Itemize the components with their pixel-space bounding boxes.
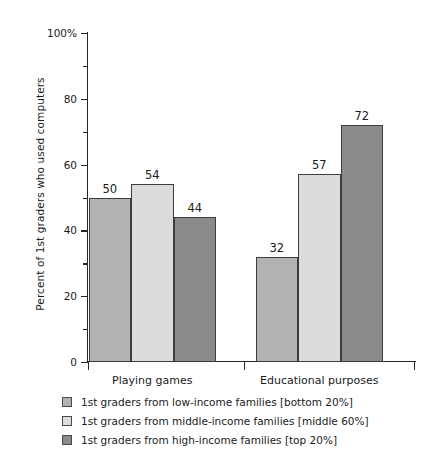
bar-value-label: 54 — [145, 168, 160, 182]
chart-legend: 1st graders from low-income families [bo… — [62, 392, 422, 449]
y-axis-tick — [81, 99, 88, 100]
legend-item: 1st graders from high-income families [t… — [62, 430, 422, 449]
bar-value-label: 32 — [269, 241, 284, 255]
bar: 72 — [341, 125, 384, 362]
bar: 57 — [298, 174, 341, 362]
bar-value-label: 44 — [187, 201, 202, 215]
y-axis-minor-tick — [83, 198, 88, 199]
y-axis-minor-tick — [83, 263, 88, 264]
x-axis-tick — [244, 362, 245, 370]
y-axis-minor-tick — [83, 132, 88, 133]
y-axis-tick-label: 0 — [70, 356, 77, 368]
y-axis-tick-label: 80 — [64, 93, 77, 105]
x-axis-category-label: Playing games — [112, 374, 192, 387]
y-axis-tick-label: 100% — [47, 27, 77, 39]
y-axis-tick-label: 60 — [64, 159, 77, 171]
bar: 44 — [174, 217, 217, 362]
legend-item: 1st graders from low-income families [bo… — [62, 392, 422, 411]
legend-swatch-icon — [62, 416, 72, 426]
bar: 54 — [131, 184, 174, 362]
legend-label: 1st graders from high-income families [t… — [81, 434, 337, 446]
legend-label: 1st graders from low-income families [bo… — [81, 396, 353, 408]
x-axis-tick — [88, 362, 89, 370]
x-axis-category-label: Educational purposes — [260, 374, 378, 387]
legend-swatch-icon — [62, 397, 72, 407]
y-axis-tick — [81, 33, 88, 34]
legend-swatch-icon — [62, 435, 72, 445]
y-axis-tick-label: 20 — [64, 290, 77, 302]
y-axis-tick — [81, 296, 88, 297]
y-axis-tick — [81, 230, 88, 231]
legend-item: 1st graders from middle-income families … — [62, 411, 422, 430]
x-axis-end-tick — [414, 362, 415, 370]
y-axis-tick — [81, 362, 88, 363]
bar: 32 — [256, 257, 299, 362]
y-axis-tick-label: 40 — [64, 224, 77, 236]
plot-area: 020406080100%505444Playing games325772Ed… — [88, 33, 415, 362]
y-axis-tick — [81, 165, 88, 166]
bar-value-label: 50 — [102, 182, 117, 196]
y-axis-label: Percent of 1st graders who used computer… — [34, 64, 46, 324]
y-axis-minor-tick — [83, 66, 88, 67]
y-axis-minor-tick — [83, 329, 88, 330]
bar-chart-figure: Percent of 1st graders who used computer… — [0, 0, 429, 472]
bar: 50 — [89, 198, 132, 363]
bar-value-label: 72 — [354, 109, 369, 123]
bar-value-label: 57 — [312, 158, 327, 172]
legend-label: 1st graders from middle-income families … — [81, 415, 369, 427]
